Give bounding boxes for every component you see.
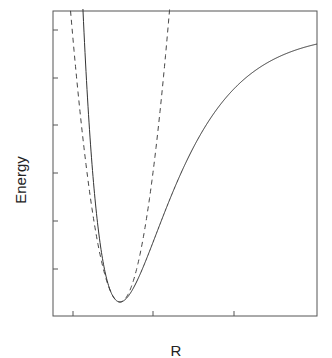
y-axis-ticks (53, 30, 58, 269)
energy-plot (0, 0, 332, 358)
x-axis-label: R (171, 342, 182, 358)
x-axis-ticks (73, 311, 234, 316)
harmonic-curve (53, 0, 317, 302)
morse-curve (53, 0, 317, 302)
y-axis-label: Energy (12, 156, 29, 204)
